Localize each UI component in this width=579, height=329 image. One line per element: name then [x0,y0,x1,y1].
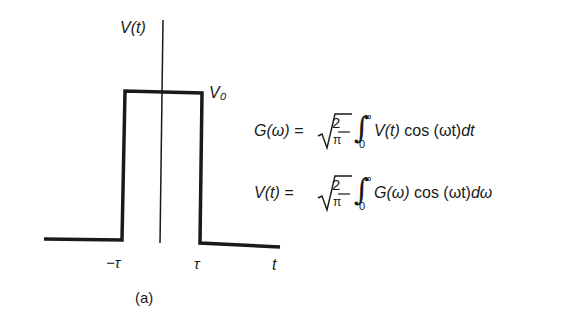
pulse-plot [0,0,579,329]
integrand: G(ω) cos (ωt)dω [374,184,492,202]
lower-limit: 0 [359,138,365,150]
coef-numerator: 2 [332,114,340,131]
lower-limit: 0 [359,200,365,212]
integrand: V(t) cos (ωt)dt [374,122,475,140]
differential: dt [461,122,474,139]
differential: dω [471,184,492,201]
integrand-cos: cos (ωt) [400,122,461,139]
equation-inverse-transform: V(t) = 2 π ∫ ∞ 0 G(ω) cos (ωt)dω [254,174,574,214]
equation-lhs: G(ω) = [254,122,303,140]
figure-canvas: V(t) V₀ −τ τ t (a) G(ω) = 2 π ∫ ∞ 0 V(t)… [0,0,579,329]
integrand-cos: cos (ωt) [410,184,471,201]
tick-neg-tau: −τ [106,255,120,270]
upper-limit: ∞ [364,110,372,122]
v0-label: V₀ [209,85,226,101]
tick-tau: τ [194,256,200,271]
integrand-function: G(ω) [374,184,410,201]
upper-limit: ∞ [364,172,372,184]
vertical-axis [160,20,163,243]
equation-fourier-cosine-transform: G(ω) = 2 π ∫ ∞ 0 V(t) cos (ωt)dt [254,112,574,152]
coef-denominator: π [333,195,341,209]
y-axis-label: V(t) [120,20,146,36]
equation-lhs: V(t) = [254,184,294,202]
coef-numerator: 2 [332,176,340,193]
figure-caption: (a) [135,290,153,305]
x-axis-label: t [272,257,276,273]
coef-denominator: π [333,133,341,147]
integrand-function: V(t) [374,122,400,139]
